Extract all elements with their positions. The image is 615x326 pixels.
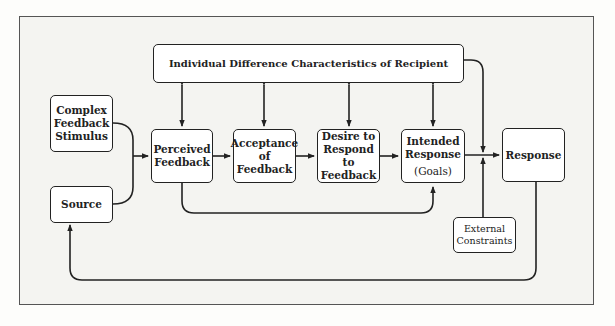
desire-line-1: Desire to	[322, 130, 375, 143]
acceptance-of-feedback-box: Acceptance of Feedback	[233, 129, 296, 183]
acceptance-line-1: Acceptance	[231, 137, 298, 150]
response-label: Response	[506, 149, 562, 162]
perceived-feedback-box: Perceived Feedback	[151, 129, 213, 183]
complex-feedback-stimulus-box: Complex Feedback Stimulus	[50, 95, 113, 152]
perceived-feedback-line-1: Perceived	[153, 143, 210, 156]
desire-to-respond-box: Desire to Respond to Feedback	[317, 129, 380, 183]
complex-feedback-line-3: Stimulus	[55, 130, 108, 143]
intended-response-box: Intended Response (Goals)	[401, 129, 465, 183]
perceived-feedback-line-2: Feedback	[154, 156, 209, 169]
source-box: Source	[50, 186, 113, 223]
external-line-1: External	[464, 223, 505, 235]
external-constraints-box: External Constraints	[453, 217, 516, 253]
acceptance-line-3: Feedback	[237, 163, 292, 176]
acceptance-line-2: of	[259, 150, 271, 163]
intended-line-1: Intended	[406, 135, 459, 148]
individual-difference-box: Individual Difference Characteristics of…	[153, 44, 464, 83]
desire-line-2: Respond to	[318, 143, 379, 169]
response-box: Response	[502, 128, 565, 182]
intended-line-2: Response	[405, 148, 461, 161]
source-label: Source	[61, 198, 102, 211]
complex-feedback-line-2: Feedback	[54, 117, 109, 130]
goals-label: (Goals)	[414, 165, 452, 178]
desire-line-3: Feedback	[321, 169, 376, 182]
individual-difference-label: Individual Difference Characteristics of…	[169, 57, 448, 70]
external-line-2: Constraints	[457, 235, 513, 247]
complex-feedback-line-1: Complex	[56, 104, 107, 117]
